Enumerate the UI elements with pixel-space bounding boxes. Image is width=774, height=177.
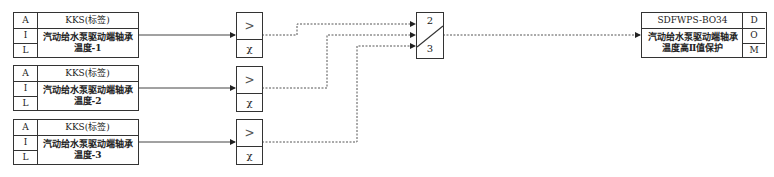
kks-tag: KKS(标签) [37, 120, 138, 136]
desc-line-1: 汽动给水泵驱动端轴承 [648, 32, 738, 43]
output-kks-tag: SDFWPS-BO34 [642, 13, 743, 29]
kks-tag: KKS(标签) [37, 13, 138, 29]
input-col: A I L [14, 13, 38, 57]
desc-line-1: 汽动给水泵驱动端轴承 [43, 139, 133, 150]
output-col: D O M [742, 13, 766, 57]
row-label-i: I [14, 81, 37, 97]
signal-description: 汽动给水泵驱动端轴承温度-2 [37, 81, 138, 110]
input-block-2: A I L KKS(标签) 汽动给水泵驱动端轴承温度-2 [13, 65, 139, 111]
greater-than-op: > [237, 67, 262, 94]
quality-mark: χ [237, 39, 262, 57]
comparator-1: > χ [236, 12, 263, 58]
dashed-wire-2 [262, 35, 415, 88]
quality-mark: χ [237, 146, 262, 164]
input-block-1: A I L KKS(标签) 汽动给水泵驱动端轴承温度-1 [13, 12, 139, 58]
row-label-l: L [14, 96, 37, 111]
signal-description: 汽动给水泵驱动端轴承温度-1 [37, 28, 138, 57]
row-label-a: A [14, 66, 37, 82]
desc-line-1: 汽动给水泵驱动端轴承 [43, 32, 133, 43]
dashed-wire-1 [262, 24, 415, 35]
desc-line-2: 温度-2 [43, 96, 133, 107]
dashed-wire-3 [262, 46, 415, 142]
row-label-l: L [14, 43, 37, 58]
input-col: A I L [14, 120, 38, 164]
two-of-three-voter: 2 3 [416, 12, 444, 59]
desc-line-2: 温度-1 [43, 43, 133, 54]
greater-than-op: > [237, 13, 262, 40]
row-label-i: I [14, 135, 37, 151]
row-label-l: L [14, 150, 37, 165]
row-label-d: D [743, 13, 765, 29]
quality-mark: χ [237, 93, 262, 111]
signal-description: 汽动给水泵驱动端轴承温度-3 [37, 135, 138, 164]
output-description: 汽动给水泵驱动端轴承温度高Ⅱ值保护 [642, 28, 743, 57]
row-label-a: A [14, 120, 37, 136]
output-block: SDFWPS-BO34 汽动给水泵驱动端轴承温度高Ⅱ值保护 D O M [641, 12, 767, 58]
desc-line-2: 温度高Ⅱ值保护 [648, 43, 738, 54]
kks-tag: KKS(标签) [37, 66, 138, 82]
input-block-3: A I L KKS(标签) 汽动给水泵驱动端轴承温度-3 [13, 119, 139, 165]
input-col: A I L [14, 66, 38, 110]
desc-line-2: 温度-3 [43, 150, 133, 161]
row-label-m: M [743, 43, 765, 58]
comparator-3: > χ [236, 119, 263, 165]
desc-line-1: 汽动给水泵驱动端轴承 [43, 85, 133, 96]
row-label-a: A [14, 13, 37, 29]
row-label-o: O [743, 28, 765, 44]
voter-bottom-number: 3 [417, 43, 443, 54]
row-label-i: I [14, 28, 37, 44]
greater-than-op: > [237, 120, 262, 147]
comparator-2: > χ [236, 66, 263, 112]
